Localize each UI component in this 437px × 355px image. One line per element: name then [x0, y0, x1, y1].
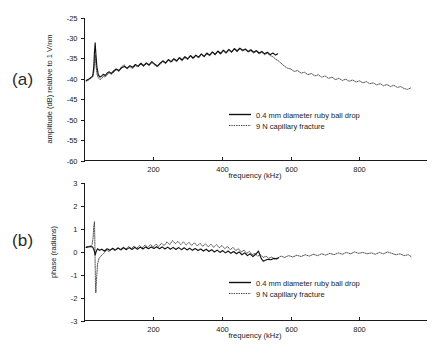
y-axis-label-a: amplitude (dB) relative to 1 V/nm: [45, 34, 54, 143]
y-tick-label: -25: [67, 14, 78, 23]
y-tick-label: -45: [67, 95, 78, 104]
x-axis-label-b: frequency (kHz): [229, 331, 282, 340]
plot-b-axes: 3210-1-2-3 200400600800: [71, 180, 427, 334]
y-tick-label: -40: [67, 75, 78, 84]
x-tick-label: 200: [147, 165, 160, 174]
x-tick-label: 200: [147, 325, 160, 334]
y-tick-label: -35: [67, 54, 78, 63]
y-tick-label: -1: [71, 271, 78, 280]
legend-label-capillary-b: 9 N capillary fracture: [256, 290, 325, 299]
y-tick-label: 0: [73, 248, 77, 257]
amplitude-spectrum-plot: -25-30-35-40-45-50-55-60 200400600800 am…: [0, 0, 437, 180]
y-tick-label: -2: [71, 294, 78, 303]
y-tick-label: -50: [67, 116, 78, 125]
y-tick-label: -55: [67, 136, 78, 145]
trace-ruby-ball-drop-amplitude: [86, 43, 277, 81]
x-tick-label: 400: [216, 325, 229, 334]
y-tick-group-b: 3210-1-2-3: [71, 180, 85, 326]
y-tick-label: -30: [67, 34, 78, 43]
x-tick-label: 400: [216, 165, 229, 174]
y-tick-label: 3: [73, 180, 77, 188]
y-tick-label: -60: [67, 157, 78, 166]
y-tick-label: 1: [73, 225, 77, 234]
phase-spectrum-plot: 3210-1-2-3 200400600800 phase (radians) …: [0, 180, 437, 355]
plot-a-traces: [86, 43, 411, 90]
y-tick-group-a: -25-30-35-40-45-50-55-60: [67, 14, 85, 166]
x-tick-label: 600: [285, 325, 298, 334]
x-tick-label: 600: [285, 165, 298, 174]
legend-label-ruby-ball-b: 0.4 mm diameter ruby ball drop: [256, 279, 360, 288]
y-tick-label: -3: [71, 317, 78, 326]
plot-a-axes: -25-30-35-40-45-50-55-60 200400600800: [67, 14, 427, 173]
x-tick-label: 800: [353, 325, 366, 334]
trace-capillary-fracture-amplitude: [86, 49, 411, 89]
legend-a: 0.4 mm diameter ruby ball drop 9 N capil…: [229, 111, 360, 131]
figure-container: (a) (b) -25-30-35-40-45-50-55-60 2004006…: [0, 0, 437, 355]
legend-b: 0.4 mm diameter ruby ball drop 9 N capil…: [229, 279, 360, 299]
trace-ruby-ball-drop-phase: [86, 246, 278, 261]
legend-label-ruby-ball-a: 0.4 mm diameter ruby ball drop: [256, 111, 360, 120]
x-axis-label-a: frequency (kHz): [229, 171, 282, 180]
legend-label-capillary-a: 9 N capillary fracture: [256, 122, 325, 131]
x-tick-label: 800: [353, 165, 366, 174]
y-axis-label-b: phase (radians): [49, 225, 58, 278]
y-tick-label: 2: [73, 202, 77, 211]
